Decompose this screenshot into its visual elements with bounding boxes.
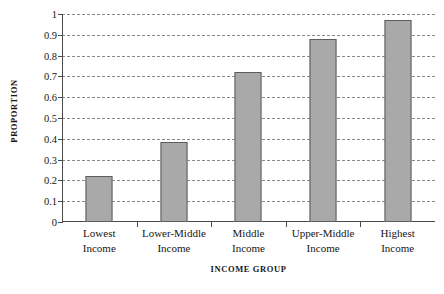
- bar[interactable]: [384, 20, 411, 222]
- bar-series: [62, 14, 435, 222]
- y-axis-tick-label: 0.4: [44, 133, 57, 144]
- y-axis-tick-label: 0.3: [44, 154, 57, 165]
- x-axis-title-text: INCOME GROUP: [211, 264, 287, 274]
- bar-chart: PROPORTION 00.10.20.30.40.50.60.70.80.91…: [0, 0, 444, 294]
- y-axis-tick-label: 0.9: [44, 29, 57, 40]
- x-axis-category-label: HighestIncome: [360, 226, 435, 256]
- y-axis-tick-label: 0.8: [44, 50, 57, 61]
- y-axis-title-text: PROPORTION: [9, 79, 19, 142]
- bar[interactable]: [235, 72, 262, 222]
- category-label-line1: Lower-Middle: [142, 227, 206, 239]
- category-label-line2: Income: [286, 241, 361, 256]
- x-axis-category-label: MiddleIncome: [211, 226, 286, 256]
- bar[interactable]: [310, 39, 337, 222]
- y-axis-tick-label: 1: [52, 9, 57, 20]
- category-label-line2: Income: [137, 241, 212, 256]
- y-axis-tick: [58, 222, 63, 223]
- y-axis-title: PROPORTION: [0, 0, 28, 222]
- category-label-line1: Highest: [381, 227, 415, 239]
- y-axis-tick-label: 0.1: [44, 196, 57, 207]
- bar-slot: [211, 14, 286, 222]
- y-axis-tick-label: 0.7: [44, 71, 57, 82]
- x-axis-category-label: Lower-MiddleIncome: [137, 226, 212, 256]
- x-axis-category-labels: LowestIncomeLower-MiddleIncomeMiddleInco…: [62, 226, 435, 260]
- category-label-line2: Income: [360, 241, 435, 256]
- bar-slot: [286, 14, 361, 222]
- x-axis-category-label: LowestIncome: [62, 226, 137, 256]
- category-label-line1: Lowest: [83, 227, 115, 239]
- y-axis-tick-label: 0: [52, 217, 57, 228]
- bar[interactable]: [160, 142, 187, 222]
- category-label-line2: Income: [62, 241, 137, 256]
- category-label-line1: Upper-Middle: [292, 227, 355, 239]
- bar-slot: [137, 14, 212, 222]
- category-label-line1: Middle: [233, 227, 265, 239]
- bar-slot: [360, 14, 435, 222]
- bar-slot: [62, 14, 137, 222]
- x-axis-category-label: Upper-MiddleIncome: [286, 226, 361, 256]
- plot-area: 00.10.20.30.40.50.60.70.80.91: [62, 14, 435, 222]
- category-label-line2: Income: [211, 241, 286, 256]
- y-axis-tick-label: 0.5: [44, 113, 57, 124]
- y-axis-tick-label: 0.2: [44, 175, 57, 186]
- x-axis-title: INCOME GROUP: [62, 264, 435, 274]
- y-axis-tick-label: 0.6: [44, 92, 57, 103]
- bar[interactable]: [86, 176, 113, 222]
